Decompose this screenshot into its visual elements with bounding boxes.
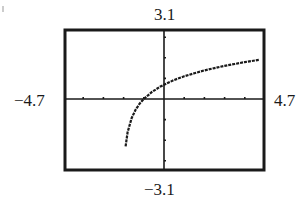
curve-path xyxy=(126,60,259,146)
axes xyxy=(65,30,264,170)
plot-area xyxy=(0,0,307,202)
function-curve xyxy=(126,60,259,146)
